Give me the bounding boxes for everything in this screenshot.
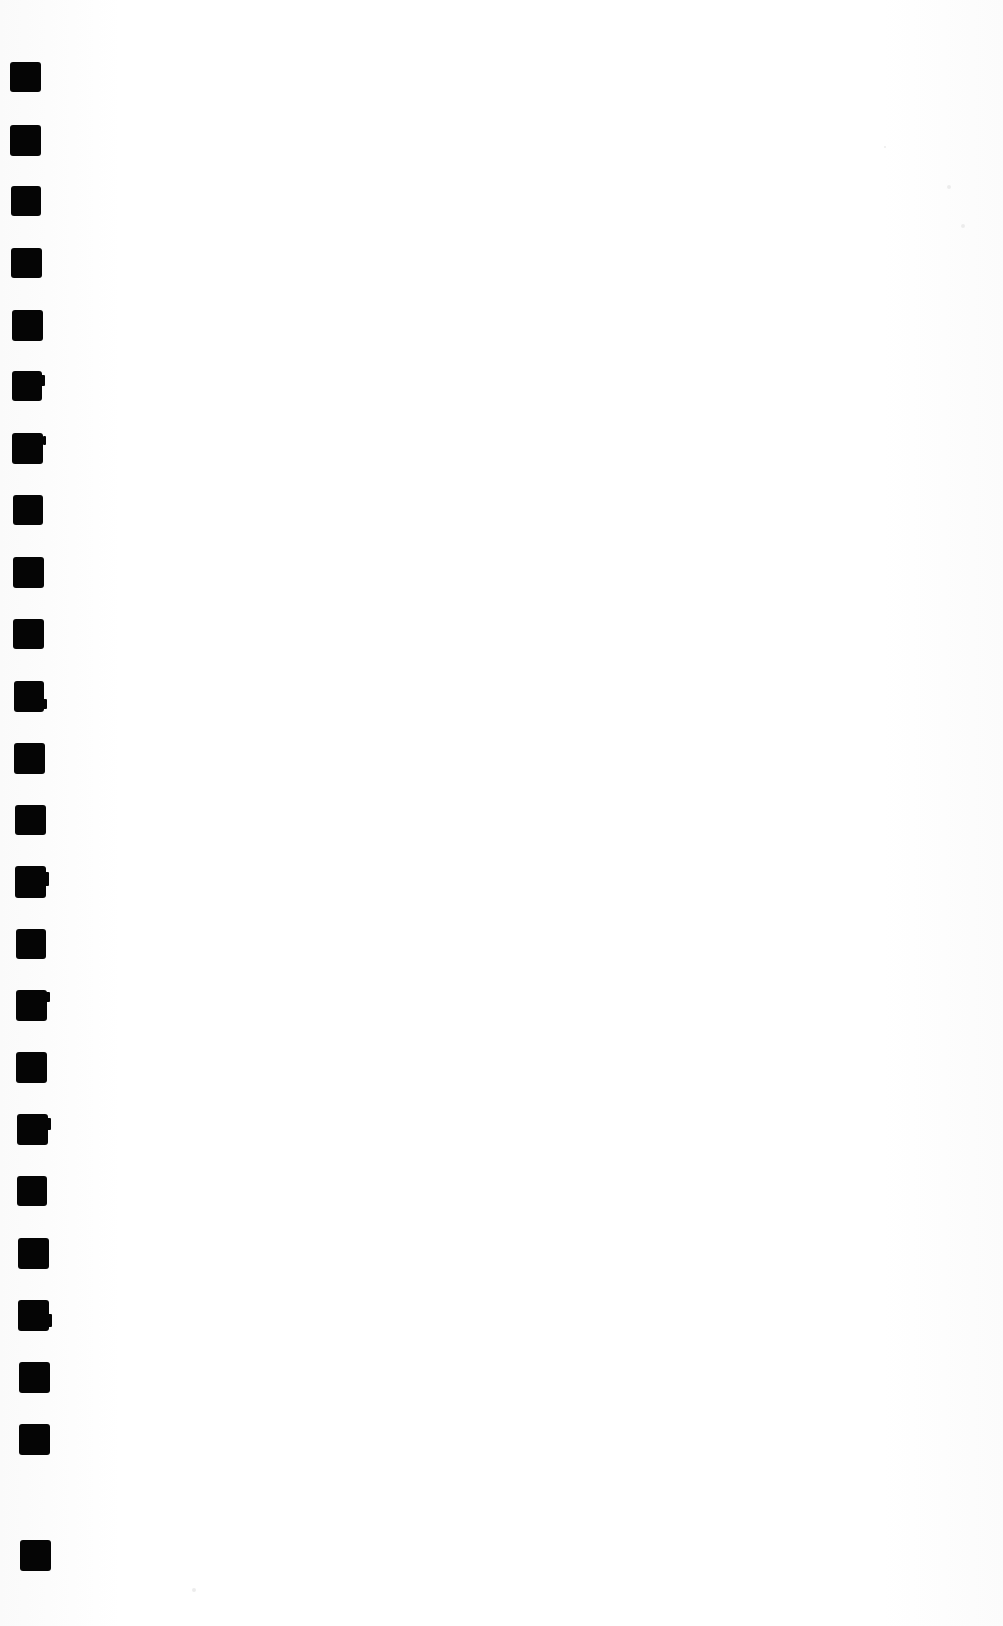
binding-punch-mark [14,743,45,774]
binding-punch-mark [11,248,42,278]
binding-punch-mark [12,310,43,341]
page-content-area [70,0,1003,1626]
ink-bleed-nub [48,1314,52,1327]
binding-punch-mark [11,186,41,216]
binding-punch-mark [12,371,42,401]
binding-punch-mark [13,495,43,525]
ink-bleed-nub [43,699,47,709]
binding-punch-mark [13,619,44,649]
ink-bleed-nub [41,375,45,386]
binding-punch-mark [18,1300,49,1331]
binding-punch-mark [18,1238,49,1269]
scanned-page [0,0,1003,1626]
binding-punch-mark [14,681,44,712]
binding-punch-mark [10,62,41,92]
binding-punch-mark [17,1114,48,1145]
left-margin-strip [0,0,70,1626]
binding-punch-mark [12,433,43,464]
binding-punch-mark [20,1540,51,1571]
ink-bleed-nub [46,992,50,1002]
binding-punch-mark [19,1362,50,1393]
ink-bleed-nub [43,436,46,445]
ink-bleed-nub [44,872,49,886]
binding-punch-mark [10,125,41,156]
binding-punch-mark [16,1052,47,1083]
binding-punch-mark [15,805,46,835]
binding-punch-mark [13,557,44,588]
binding-punch-mark [16,929,46,959]
binding-punch-mark [15,866,46,898]
binding-punch-mark [19,1424,50,1455]
binding-punch-mark [16,990,47,1021]
ink-bleed-nub [47,1118,51,1130]
binding-punch-mark [17,1176,47,1206]
